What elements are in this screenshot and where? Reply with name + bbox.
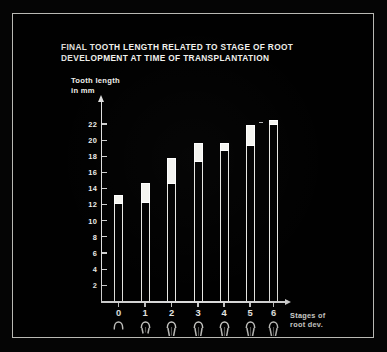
y-tick-label-22: 22 [71, 120, 97, 129]
tooth-stage-0-icon [111, 318, 126, 336]
y-tick-8 [102, 236, 107, 237]
bar-body-stage-2 [167, 184, 176, 301]
y-tick-22 [102, 123, 107, 124]
y-tick-label-14: 14 [71, 184, 97, 193]
bar-cap-stage-0 [114, 195, 123, 204]
x-axis-label-line-2: root dev. [290, 320, 326, 329]
x-tick-6 [273, 303, 274, 307]
arrow-right-icon [285, 299, 291, 305]
bar-stage-2[interactable] [167, 158, 176, 302]
chart-plate: FINAL TOOTH LENGTH RELATED TO STAGE OF R… [14, 15, 372, 336]
y-tick-label-2: 2 [71, 281, 97, 290]
y-tick-label-8: 8 [71, 233, 97, 242]
tooth-stage-2-icon [164, 318, 179, 336]
x-tick-4 [223, 303, 224, 307]
x-tick-label-6: 6 [263, 307, 285, 318]
bar-cap-stage-2 [167, 158, 176, 185]
bar-body-stage-1 [141, 203, 150, 301]
x-tick-0 [118, 303, 119, 307]
x-tick-3 [197, 303, 198, 307]
tooth-stage-3-icon [191, 318, 206, 336]
tooth-stage-1-icon [138, 318, 153, 336]
slide-photograph: FINAL TOOTH LENGTH RELATED TO STAGE OF R… [0, 0, 387, 352]
bar-stage-1[interactable] [141, 183, 150, 302]
x-tick-label-3: 3 [187, 307, 209, 318]
x-tick-label-1: 1 [134, 307, 156, 318]
x-axis-label-line-1: Stages of [290, 311, 326, 320]
bar-body-stage-4 [220, 151, 229, 301]
x-tick-2 [171, 303, 172, 307]
x-axis-label: Stages of root dev. [290, 311, 326, 330]
y-tick-label-12: 12 [71, 200, 97, 209]
y-tick-label-16: 16 [71, 168, 97, 177]
bar-cap-stage-1 [141, 183, 150, 203]
bar-cap-stage-4 [220, 143, 229, 151]
y-tick-20 [102, 140, 107, 141]
bar-stage-4[interactable] [220, 143, 229, 301]
y-axis-line [101, 101, 102, 302]
y-tick-6 [102, 252, 107, 253]
tooth-stage-4-icon [217, 318, 232, 336]
y-tick-18 [102, 156, 107, 157]
y-tick-4 [102, 269, 107, 270]
x-tick-label-0: 0 [108, 307, 130, 318]
bar-cap-stage-5 [246, 125, 255, 146]
tooth-stage-6-icon [266, 318, 281, 336]
y-tick-label-4: 4 [71, 265, 97, 274]
y-tick-10 [102, 220, 107, 221]
bar-body-stage-0 [114, 204, 123, 302]
bar-cap-stage-3 [194, 143, 203, 162]
y-tick-2 [102, 285, 107, 286]
bar-body-stage-3 [194, 162, 203, 302]
bar-body-stage-5 [246, 146, 255, 302]
bar-6-marker-dash [259, 122, 264, 123]
y-tick-12 [102, 204, 107, 205]
x-tick-label-2: 2 [161, 307, 183, 318]
bar-stage-5[interactable] [246, 125, 255, 302]
plot-area: 246810121416182022 0123456 [14, 15, 372, 336]
arrow-up-icon [98, 95, 104, 102]
x-tick-label-4: 4 [213, 307, 235, 318]
bar-body-stage-6 [269, 125, 278, 302]
y-tick-14 [102, 188, 107, 189]
y-tick-label-18: 18 [71, 152, 97, 161]
x-tick-1 [144, 303, 145, 307]
y-tick-label-10: 10 [71, 217, 97, 226]
y-tick-label-6: 6 [71, 249, 97, 258]
y-tick-16 [102, 172, 107, 173]
x-tick-5 [249, 303, 250, 307]
x-axis-line [101, 301, 286, 302]
y-tick-label-20: 20 [71, 136, 97, 145]
x-tick-label-5: 5 [239, 307, 261, 318]
bar-stage-0[interactable] [114, 195, 123, 301]
bar-cap-stage-6 [269, 120, 278, 125]
bar-stage-6[interactable] [269, 120, 278, 301]
bar-stage-3[interactable] [194, 143, 203, 301]
tooth-stage-5-icon [243, 318, 258, 336]
